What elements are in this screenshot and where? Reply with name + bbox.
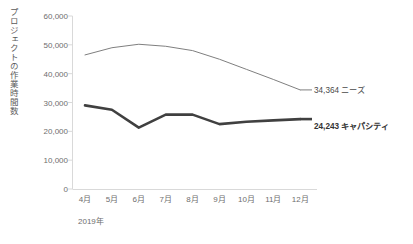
series-end-label-capacity: 24,243 キャパシティ	[314, 119, 389, 131]
series-end-label-needs: 34,364 ニーズ	[314, 83, 365, 95]
line-chart: プロジェクトの作業時間数 010,00020,00030,00040,00050…	[0, 0, 413, 244]
x-tick-label: 12月	[283, 193, 317, 204]
x-axis-title: 2019年	[78, 215, 104, 226]
